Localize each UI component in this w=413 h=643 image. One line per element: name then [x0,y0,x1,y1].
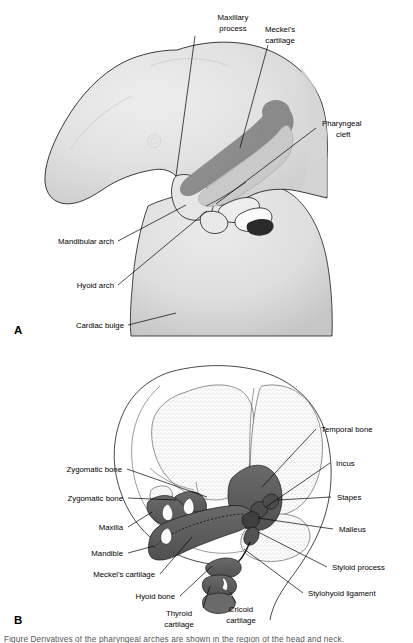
label-pharyngeal-cleft-line2: cleft [336,130,351,139]
anatomy-figure: Maxillary process Meckel's cartilage Pha… [0,0,413,643]
figure-caption-clipped: Figure Derivatives of the pharyngeal arc… [0,636,413,643]
label-stapes: Stapes [337,493,361,502]
panel-letter-b: B [14,614,22,626]
label-maxillary-process-line1: Maxillary [218,13,249,22]
label-temporal-bone: Temporal bone [321,425,373,434]
label-meckels-cartilage-b: Meckel's cartilage [93,570,155,579]
label-maxilla: Maxilla [99,523,124,532]
label-maxillary-process-line2: process [219,24,246,33]
label-pharyngeal-cleft-line1: Pharyngeal [322,119,362,128]
label-stylohyoid-ligament: Stylohyoid ligament [308,589,376,598]
label-cricoid-cartilage-line1: Cricoid [229,605,253,614]
label-malleus: Malleus [339,525,366,534]
label-cricoid-cartilage-line2: cartilage [226,616,255,625]
label-hyoid-arch: Hyoid arch [77,281,114,290]
label-incus: Incus [336,459,355,468]
figure-caption-text: Figure Derivatives of the pharyngeal arc… [4,636,344,643]
label-hyoid-bone: Hyoid bone [136,592,175,601]
label-mandible: Mandible [91,549,123,558]
leader-maxilla [128,512,152,527]
label-zygomatic-bone-lower: Zygomatic bone [68,494,123,503]
label-meckels-cartilage-line1: Meckel's [265,25,295,34]
label-mandibular-arch: Mandibular arch [58,237,114,246]
panel-b-illustration: Temporal bone Incus Stapes Malleus Stylo… [14,366,385,629]
label-cardiac-bulge: Cardiac bulge [76,321,124,330]
label-thyroid-cartilage-line2: cartilage [164,620,193,629]
figure-canvas: Maxillary process Meckel's cartilage Pha… [0,0,413,643]
label-meckels-cartilage-line2: cartilage [265,36,294,45]
label-styloid-process: Styloid process [332,563,385,572]
label-thyroid-cartilage-line1: Thyroid [166,609,192,618]
label-zygomatic-bone-upper: Zygomatic bone [67,465,122,474]
panel-letter-a: A [14,324,22,336]
panel-a-illustration: Maxillary process Meckel's cartilage Pha… [14,13,362,336]
